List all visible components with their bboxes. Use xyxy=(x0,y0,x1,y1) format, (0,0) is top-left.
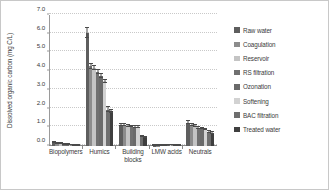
y-axis-title-text: Dissolved organic carbon (mg C/L) xyxy=(7,33,14,128)
bar-group xyxy=(150,15,184,146)
legend-item[interactable]: Softening xyxy=(234,94,326,108)
y-tick-label: 0.0 xyxy=(37,136,45,143)
x-axis-label: Building blocks xyxy=(116,148,150,163)
y-tick-label: 7.0 xyxy=(37,5,45,12)
error-bar-cap xyxy=(109,112,113,113)
x-axis-label: LMW acids xyxy=(150,148,184,163)
legend-label: Treated water xyxy=(243,126,280,133)
plot-area: 0.01.02.03.04.05.06.07.0 xyxy=(49,15,217,146)
bar-group xyxy=(116,15,150,146)
legend-label: Softening xyxy=(243,98,269,105)
legend-label: BAC filtration xyxy=(243,112,278,119)
legend-label: Coagulation xyxy=(243,41,276,48)
legend-swatch xyxy=(234,84,240,90)
legend-swatch xyxy=(234,127,240,133)
error-bar-cap xyxy=(76,145,80,146)
legend-item[interactable]: Raw water xyxy=(234,23,326,37)
error-bar-cap xyxy=(177,145,181,146)
x-axis-label: Humics xyxy=(83,148,117,163)
bar[interactable] xyxy=(110,111,113,146)
legend-swatch xyxy=(234,98,240,104)
bar-group xyxy=(49,15,83,146)
y-tick-label: 2.0 xyxy=(37,98,45,105)
y-tick-label: 6.0 xyxy=(37,23,45,30)
legend-item[interactable]: Treated water xyxy=(234,122,326,136)
legend-swatch xyxy=(234,70,240,76)
legend-item[interactable]: Ozonation xyxy=(234,80,326,94)
error-bar-cap xyxy=(109,109,113,110)
legend-item[interactable]: BAC filtration xyxy=(234,108,326,122)
x-axis-label: Biopolymers xyxy=(49,148,83,163)
y-axis-title: Dissolved organic carbon (mg C/L) xyxy=(5,15,15,146)
legend-swatch xyxy=(234,42,240,48)
legend-item[interactable]: Reservoir xyxy=(234,51,326,65)
error-bar-cap xyxy=(210,133,214,134)
legend-label: RS filtration xyxy=(243,69,274,76)
legend-label: Reservoir xyxy=(243,55,269,62)
bar-slot xyxy=(211,15,214,146)
bar-slot xyxy=(76,15,79,146)
legend-label: Ozonation xyxy=(243,83,271,90)
bar-group xyxy=(83,15,117,146)
y-tick-label: 4.0 xyxy=(37,61,45,68)
legend-item[interactable]: RS filtration xyxy=(234,66,326,80)
bar-group xyxy=(183,15,217,146)
legend-swatch xyxy=(234,27,240,33)
bar-slot xyxy=(143,15,146,146)
legend-swatch xyxy=(234,112,240,118)
y-tick-label: 5.0 xyxy=(37,42,45,49)
bar[interactable] xyxy=(143,137,146,146)
y-tick-label: 3.0 xyxy=(37,79,45,86)
bar[interactable] xyxy=(211,133,214,146)
bar-groups xyxy=(49,15,217,146)
legend-item[interactable]: Coagulation xyxy=(234,37,326,51)
bar-slot xyxy=(110,15,113,146)
bar-slot xyxy=(177,15,180,146)
error-bar-cap xyxy=(143,137,147,138)
legend-swatch xyxy=(234,56,240,62)
legend-label: Raw water xyxy=(243,27,272,34)
chart-figure: Dissolved organic carbon (mg C/L) 0.01.0… xyxy=(0,0,329,190)
x-axis-labels: BiopolymersHumicsBuilding blocksLMW acid… xyxy=(49,148,217,163)
bar[interactable] xyxy=(177,145,180,146)
y-tick-label: 1.0 xyxy=(37,117,45,124)
x-axis-label: Neutrals xyxy=(183,148,217,163)
chart-legend: Raw waterCoagulationReservoirRS filtrati… xyxy=(234,23,326,137)
bar[interactable] xyxy=(76,145,79,146)
